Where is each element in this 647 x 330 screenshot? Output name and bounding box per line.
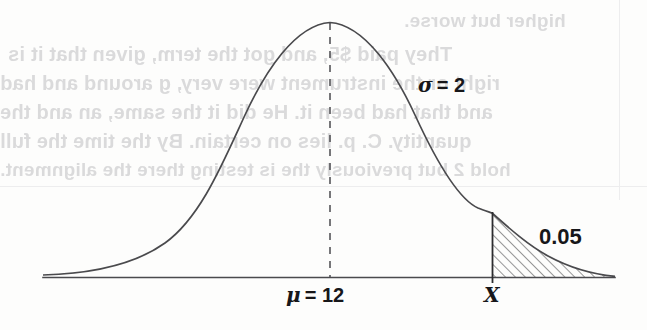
x-axis-marker-label: X (484, 283, 500, 307)
mu-label-text: = 12 (301, 284, 345, 306)
bell-curve-path (43, 23, 615, 277)
sigma-glyph: σ (418, 73, 433, 97)
distribution-diagram-svg (0, 0, 647, 330)
mu-label: μ = 12 (286, 283, 344, 307)
sigma-label: σ = 2 (418, 73, 465, 97)
tail-area-label: 0.05 (539, 224, 582, 250)
mu-glyph: μ (286, 283, 301, 307)
normal-distribution-figure: higher but worse.They paid $5, and got t… (0, 0, 647, 330)
sigma-label-text: = 2 (433, 74, 465, 96)
